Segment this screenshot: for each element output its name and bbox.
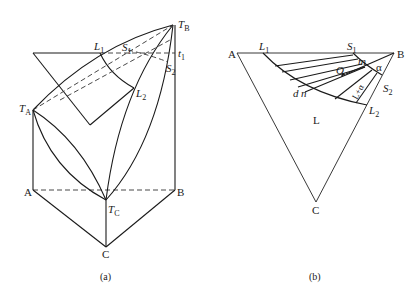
base-edge-BC xyxy=(106,190,175,247)
label-A: A xyxy=(24,186,32,198)
tie-line-2 xyxy=(282,59,358,72)
label-L2: L2 xyxy=(368,104,379,119)
liquidus-curve-TA-TC xyxy=(33,110,106,200)
line-O-B xyxy=(346,53,394,74)
label-A: A xyxy=(228,48,236,60)
label-S2: S2 xyxy=(383,82,393,97)
edge-BC xyxy=(316,53,394,202)
figure-b-isothermal-section: A B C L1 S1 S2 L2 m O d n α L L+α (b) xyxy=(228,40,404,283)
label-alpha: α xyxy=(376,61,382,73)
label-m: m xyxy=(358,55,366,67)
isotherm-edge-left xyxy=(33,53,90,125)
base-edge-AC xyxy=(33,190,106,247)
tie-line-inner xyxy=(60,40,170,100)
label-TB: TB xyxy=(178,18,189,33)
label-n: n xyxy=(301,87,307,99)
label-C: C xyxy=(102,248,109,260)
label-L-region: L xyxy=(313,114,320,126)
phase-diagram-figure: TB t1 L1 S1 S2 L2 TA TC A B C (a) A xyxy=(0,0,420,302)
edge-AC xyxy=(237,53,316,202)
liquidus-isotherm-L1-L2 xyxy=(100,53,134,88)
label-B: B xyxy=(397,48,404,60)
liquidus-curve-TB-TC xyxy=(106,25,173,200)
label-O: O xyxy=(336,64,344,76)
solidus-curve-TB-TC xyxy=(106,25,173,200)
label-t1: t1 xyxy=(178,47,185,62)
figure-a-ternary-prism: TB t1 L1 S1 S2 L2 TA TC A B C (a) xyxy=(19,18,189,283)
caption-a: (a) xyxy=(100,271,111,283)
tie-line-TA-TB xyxy=(33,25,173,110)
label-L2: L2 xyxy=(135,87,146,102)
label-S1: S1 xyxy=(122,41,132,56)
solidus-curve-TA-TC xyxy=(33,110,106,200)
label-C: C xyxy=(312,204,319,216)
label-S2: S2 xyxy=(166,62,176,77)
label-TA: TA xyxy=(19,102,31,117)
caption-b: (b) xyxy=(309,271,321,283)
label-TC: TC xyxy=(108,203,119,218)
label-d: d xyxy=(293,87,299,99)
label-B: B xyxy=(177,186,184,198)
